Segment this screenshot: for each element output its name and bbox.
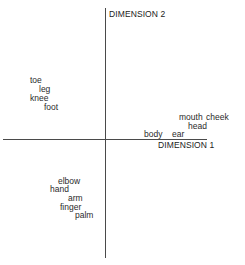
dimension-2-label: DIMENSION 2 — [109, 10, 165, 19]
dimension-1-label: DIMENSION 1 — [158, 141, 214, 150]
term-hand: hand — [50, 185, 69, 194]
dimension-2-axis — [105, 8, 106, 258]
term-foot: foot — [44, 103, 58, 112]
term-palm: palm — [75, 211, 93, 220]
mds-diagram: DIMENSION 2 DIMENSION 1 toelegkneefootmo… — [0, 0, 245, 265]
cropped-caption-fragment — [10, 0, 240, 3]
term-body: body — [144, 130, 162, 139]
term-ear: ear — [172, 130, 184, 139]
term-cheek: cheek — [206, 113, 229, 122]
term-head: head — [188, 122, 207, 131]
